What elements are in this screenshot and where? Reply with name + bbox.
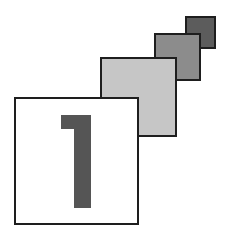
main-square [14,97,139,225]
digit-stem [74,115,91,208]
